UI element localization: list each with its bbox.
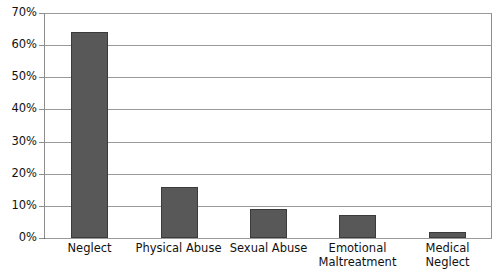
x-axis-category-label: Neglect (45, 241, 134, 255)
x-axis-label-group: NeglectPhysical AbuseSexual AbuseEmotion… (45, 241, 492, 273)
x-axis-category-label: Sexual Abuse (224, 241, 313, 255)
x-axis-category-label: Medical Neglect (403, 241, 492, 269)
y-axis-tick-label: 10% (1, 200, 37, 212)
y-axis-tick-label: 40% (1, 103, 37, 115)
gridline (45, 142, 492, 143)
y-axis-label-group: 70%60%50%40%30%20%10%0% (0, 0, 37, 273)
gridline (45, 77, 492, 78)
bar (71, 32, 108, 238)
plot-area (45, 13, 492, 238)
bar (161, 187, 198, 238)
bar (339, 215, 376, 238)
gridline (45, 206, 492, 207)
y-axis-tick-label: 0% (1, 232, 37, 244)
bar-chart: 70%60%50%40%30%20%10%0% NeglectPhysical … (0, 0, 503, 273)
gridline (45, 13, 492, 14)
bar (250, 209, 287, 238)
y-axis-tick-label: 30% (1, 136, 37, 148)
gridline (45, 45, 492, 46)
gridline (45, 109, 492, 110)
y-axis-tick-label: 50% (1, 71, 37, 83)
x-axis-category-label: Emotional Maltreatment (313, 241, 402, 269)
bar (429, 232, 466, 238)
gridline (45, 174, 492, 175)
x-axis-category-label: Physical Abuse (134, 241, 223, 255)
gridline (45, 238, 492, 239)
y-axis-tick-label: 60% (1, 39, 37, 51)
y-axis-tick-label: 20% (1, 168, 37, 180)
y-axis-tick-label: 70% (1, 7, 37, 19)
